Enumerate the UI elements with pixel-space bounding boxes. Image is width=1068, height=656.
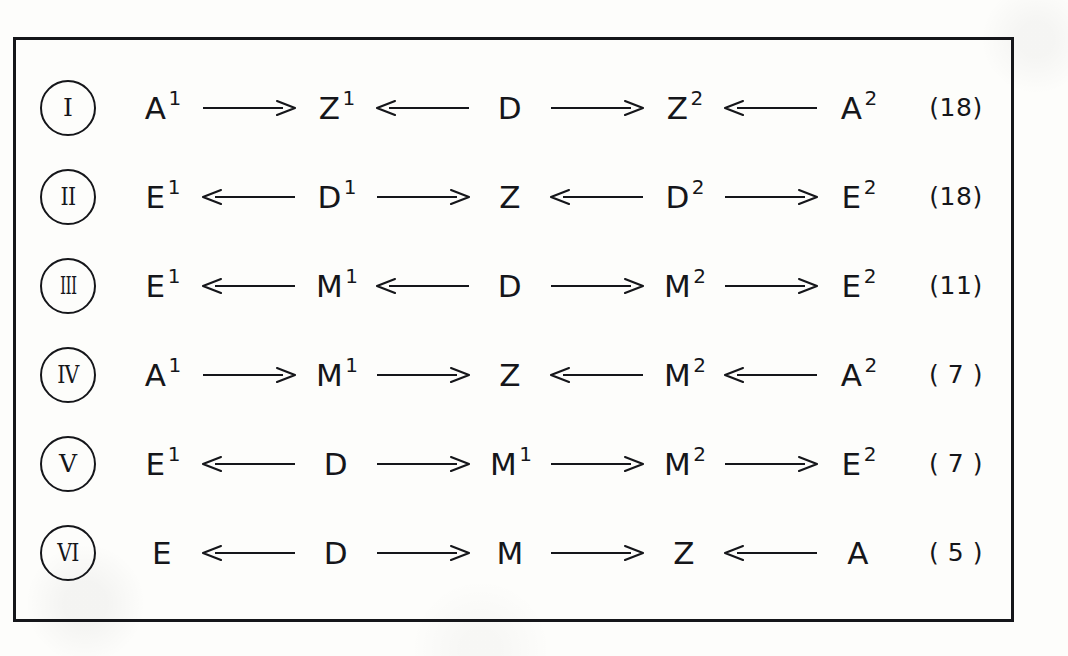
diagram-row: VIEDMZA( 5 ) <box>13 508 1014 597</box>
arrow-right-icon <box>549 525 645 581</box>
arrow-left-icon <box>201 436 297 492</box>
arrow-chain: EDMZA <box>123 525 897 581</box>
arrow-left-icon <box>201 169 297 225</box>
node-symbol: D <box>498 258 522 314</box>
chain-node: E1 <box>123 169 201 225</box>
chain-node: M1 <box>297 347 375 403</box>
node-superscript: 1 <box>168 444 181 464</box>
node-symbol: E <box>152 525 172 581</box>
row-count-cell: (11) <box>897 258 1015 314</box>
node-symbol: A <box>841 80 863 136</box>
chain-node: D <box>297 436 375 492</box>
chain-node: E2 <box>819 436 897 492</box>
node-symbol: E <box>146 436 166 492</box>
circled-roman-numeral: IV <box>40 347 96 403</box>
chain-node: D <box>471 258 549 314</box>
node-symbol: E <box>146 258 166 314</box>
chain-node: M2 <box>645 347 723 403</box>
node-superscript: 1 <box>168 266 181 286</box>
node-superscript: 2 <box>692 177 705 197</box>
row-number-cell: IV <box>13 347 123 403</box>
chain-node: D1 <box>297 169 375 225</box>
chain-node: Z2 <box>645 80 723 136</box>
chain-node: Z <box>645 525 723 581</box>
row-count-cell: ( 7 ) <box>897 347 1015 403</box>
chain-node: Z <box>471 347 549 403</box>
row-count-label: ( 5 ) <box>929 538 983 567</box>
node-superscript: 2 <box>864 177 877 197</box>
node-symbol: M <box>496 525 523 581</box>
arrow-left-icon <box>375 258 471 314</box>
row-count-cell: ( 7 ) <box>897 436 1015 492</box>
node-symbol: M <box>664 258 691 314</box>
node-symbol: E <box>842 169 862 225</box>
row-count-cell: (18) <box>897 80 1015 136</box>
chain-node: Z <box>471 169 549 225</box>
node-symbol: M <box>664 436 691 492</box>
chain-node: M2 <box>645 258 723 314</box>
node-symbol: D <box>324 436 348 492</box>
row-count-cell: ( 5 ) <box>897 525 1015 581</box>
node-superscript: 2 <box>864 266 877 286</box>
node-symbol: Z <box>499 169 521 225</box>
row-numeral-label: IV <box>57 362 78 387</box>
node-symbol: D <box>665 169 689 225</box>
node-symbol: A <box>847 525 869 581</box>
row-number-cell: I <box>13 80 123 136</box>
node-superscript: 2 <box>864 88 877 108</box>
chain-node: M1 <box>297 258 375 314</box>
arrow-right-icon <box>723 169 819 225</box>
chain-node: D <box>471 80 549 136</box>
node-superscript: 1 <box>344 177 357 197</box>
node-symbol: E <box>146 169 166 225</box>
arrow-chain: A1M1ZM2A2 <box>123 347 897 403</box>
node-superscript: 1 <box>519 444 532 464</box>
node-symbol: Z <box>319 80 341 136</box>
circled-roman-numeral: II <box>40 169 96 225</box>
circled-roman-numeral: III <box>40 258 96 314</box>
arrow-left-icon <box>723 347 819 403</box>
node-symbol: A <box>841 347 863 403</box>
row-numeral-label: III <box>60 273 77 298</box>
row-count-label: (18) <box>929 93 982 122</box>
chain-node: E1 <box>123 258 201 314</box>
arrow-chain: E1DM1M2E2 <box>123 436 897 492</box>
circled-roman-numeral: I <box>40 80 96 136</box>
diagram-row: IA1Z1DZ2A2(18) <box>13 63 1014 152</box>
node-symbol: Z <box>499 347 521 403</box>
row-number-cell: V <box>13 436 123 492</box>
row-numeral-label: II <box>61 184 76 209</box>
chain-node: M1 <box>471 436 549 492</box>
arrow-right-icon <box>723 436 819 492</box>
diagram-row: IIIE1M1DM2E2(11) <box>13 241 1014 330</box>
row-numeral-label: VI <box>57 540 78 565</box>
node-symbol: E <box>842 258 862 314</box>
node-superscript: 2 <box>693 266 706 286</box>
chain-node: E2 <box>819 169 897 225</box>
arrow-right-icon <box>375 436 471 492</box>
node-symbol: Z <box>667 80 689 136</box>
chain-node: Z1 <box>297 80 375 136</box>
node-symbol: D <box>498 80 522 136</box>
arrow-chain: A1Z1DZ2A2 <box>123 80 897 136</box>
node-superscript: 1 <box>343 88 356 108</box>
chain-node: D2 <box>645 169 723 225</box>
arrow-left-icon <box>201 258 297 314</box>
arrow-chain: E1D1ZD2E2 <box>123 169 897 225</box>
arrow-right-icon <box>375 347 471 403</box>
arrow-left-icon <box>375 80 471 136</box>
node-symbol: D <box>324 525 348 581</box>
node-superscript: 1 <box>168 177 181 197</box>
scanned-page: IA1Z1DZ2A2(18)IIE1D1ZD2E2(18)IIIE1M1DM2E… <box>0 0 1068 656</box>
node-superscript: 1 <box>345 355 358 375</box>
node-superscript: 1 <box>168 88 181 108</box>
row-number-cell: III <box>13 258 123 314</box>
chain-node: M <box>471 525 549 581</box>
chain-node: A1 <box>123 80 201 136</box>
arrow-left-icon <box>723 525 819 581</box>
node-symbol: D <box>317 169 341 225</box>
arrow-right-icon <box>549 436 645 492</box>
arrow-right-icon <box>375 169 471 225</box>
arrow-left-icon <box>201 525 297 581</box>
row-numeral-label: I <box>63 95 73 120</box>
